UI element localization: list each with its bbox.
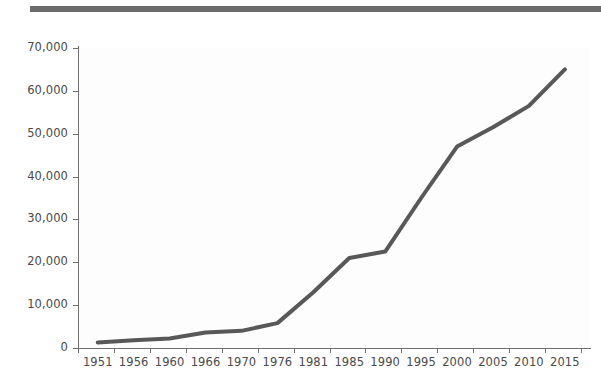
y-axis-label-wrap: 0 [0, 342, 68, 354]
x-axis-label: 1970 [221, 357, 261, 369]
x-axis-label: 1960 [150, 357, 190, 369]
y-axis-tick [73, 219, 78, 220]
y-axis-label-wrap: 50,000 [0, 128, 68, 140]
x-axis-label: 2000 [437, 357, 477, 369]
y-axis-label: 70,000 [2, 42, 68, 54]
x-axis-label: 1990 [365, 357, 405, 369]
x-axis-tick [294, 348, 295, 353]
y-axis-label-wrap: 10,000 [0, 299, 68, 311]
y-axis-label: 30,000 [2, 213, 68, 225]
y-axis-label-wrap: 30,000 [0, 213, 68, 225]
y-axis-tick [73, 305, 78, 306]
x-axis-tick [186, 348, 187, 353]
plot-area [78, 48, 590, 348]
y-axis-label-wrap: 40,000 [0, 171, 68, 183]
y-axis-label-wrap: 60,000 [0, 85, 68, 97]
x-axis-label: 2015 [545, 357, 585, 369]
x-axis-tick [437, 348, 438, 353]
y-axis-label: 0 [2, 342, 68, 354]
y-axis-tick [73, 134, 78, 135]
x-axis-label: 2010 [509, 357, 549, 369]
x-axis-tick [258, 348, 259, 353]
x-axis-tick [150, 348, 151, 353]
y-axis-label-wrap: 70,000 [0, 42, 68, 54]
y-axis-label: 40,000 [2, 171, 68, 183]
x-axis-tick [114, 348, 115, 353]
x-axis-tick [581, 348, 582, 353]
x-axis-tick [545, 348, 546, 353]
x-axis-tick [330, 348, 331, 353]
x-axis-label: 2005 [473, 357, 513, 369]
y-axis-label: 20,000 [2, 256, 68, 268]
x-axis-label: 1951 [78, 357, 118, 369]
header-rule [30, 6, 601, 12]
y-axis-label: 60,000 [2, 85, 68, 97]
x-axis-label: 1976 [257, 357, 297, 369]
y-axis-tick [73, 262, 78, 263]
x-axis-tick [509, 348, 510, 353]
x-axis-label: 1966 [186, 357, 226, 369]
y-axis-label-wrap: 20,000 [0, 256, 68, 268]
x-axis-line [78, 348, 591, 349]
y-axis-tick [73, 177, 78, 178]
x-axis-tick [401, 348, 402, 353]
line-chart: 010,00020,00030,00040,00050,00060,00070,… [0, 0, 601, 383]
x-axis-label: 1985 [329, 357, 369, 369]
x-axis-tick [473, 348, 474, 353]
y-axis-line [78, 46, 79, 349]
y-axis-tick [73, 48, 78, 49]
x-axis-tick [78, 348, 79, 353]
y-axis-label: 10,000 [2, 299, 68, 311]
x-axis-tick [365, 348, 366, 353]
x-axis-tick [222, 348, 223, 353]
y-axis-tick [73, 91, 78, 92]
y-axis-label: 50,000 [2, 128, 68, 140]
x-axis-label: 1956 [114, 357, 154, 369]
x-axis-label: 1981 [293, 357, 333, 369]
x-axis-label: 1995 [401, 357, 441, 369]
